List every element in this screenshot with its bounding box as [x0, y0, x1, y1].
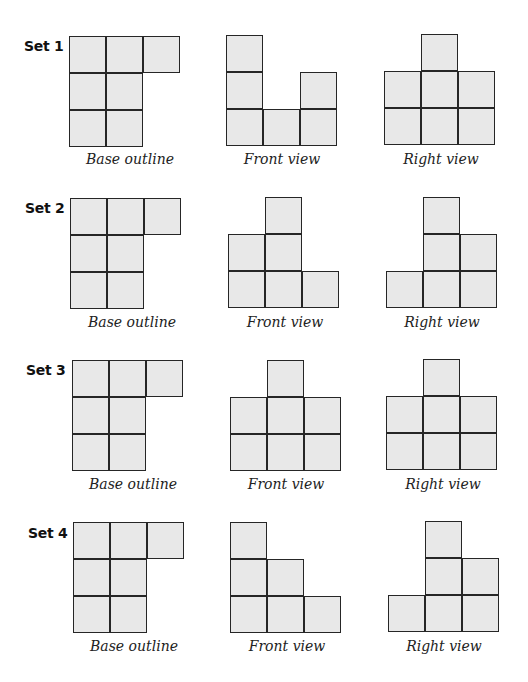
- cube-cell: [423, 396, 460, 433]
- cube-cell: [73, 522, 110, 559]
- cube-cell: [460, 396, 497, 433]
- cube-cell: [421, 108, 458, 145]
- cube-cell: [304, 397, 341, 434]
- cube-cell: [230, 522, 267, 559]
- cube-cell: [423, 359, 460, 396]
- cube-cell: [425, 558, 462, 595]
- cube-cell: [388, 595, 425, 632]
- right-view-caption: Right view: [373, 476, 513, 492]
- cube-cell: [458, 108, 495, 145]
- cube-cell: [226, 72, 263, 109]
- cube-cell: [228, 271, 265, 308]
- cube-cell: [106, 73, 143, 110]
- cube-cell: [70, 235, 107, 272]
- set-label: Set 2: [25, 200, 64, 216]
- cube-cell: [425, 595, 462, 632]
- front-view-caption: Front view: [217, 638, 357, 654]
- cube-cell: [304, 596, 341, 633]
- cube-cell: [267, 434, 304, 471]
- cube-cell: [263, 109, 300, 146]
- cube-cell: [72, 434, 109, 471]
- cube-cell: [423, 271, 460, 308]
- cube-cell: [302, 271, 339, 308]
- cube-cell: [230, 434, 267, 471]
- cube-cell: [460, 234, 497, 271]
- base-outline-caption: Base outline: [60, 151, 200, 167]
- right-view-caption: Right view: [372, 314, 512, 330]
- cube-cell: [109, 397, 146, 434]
- right-view-caption: Right view: [374, 638, 514, 654]
- cube-cell: [110, 596, 147, 633]
- cube-cell: [384, 71, 421, 108]
- cube-cell: [265, 197, 302, 234]
- cube-cell: [110, 559, 147, 596]
- cube-cell: [460, 271, 497, 308]
- cube-cell: [300, 109, 337, 146]
- cube-cell: [230, 397, 267, 434]
- base-outline-caption: Base outline: [63, 476, 203, 492]
- base-outline-caption: Base outline: [62, 314, 202, 330]
- cube-cell: [421, 34, 458, 71]
- set-label: Set 1: [24, 38, 63, 54]
- cube-cell: [228, 234, 265, 271]
- cube-cell: [143, 36, 180, 73]
- base-outline-caption: Base outline: [64, 638, 204, 654]
- cube-cell: [267, 596, 304, 633]
- cube-cell: [69, 73, 106, 110]
- cube-cell: [107, 198, 144, 235]
- cube-cell: [458, 71, 495, 108]
- cube-cell: [106, 36, 143, 73]
- cube-cell: [423, 433, 460, 470]
- cube-cell: [462, 595, 499, 632]
- cube-cell: [300, 72, 337, 109]
- cube-cell: [146, 360, 183, 397]
- cube-cell: [73, 596, 110, 633]
- cube-cell: [423, 234, 460, 271]
- cube-cell: [69, 36, 106, 73]
- cube-cell: [109, 360, 146, 397]
- front-view-caption: Front view: [215, 314, 355, 330]
- cube-cell: [386, 433, 423, 470]
- cube-cell: [421, 71, 458, 108]
- right-view-caption: Right view: [371, 151, 511, 167]
- cube-cell: [106, 110, 143, 147]
- cube-cell: [226, 35, 263, 72]
- cube-cell: [267, 397, 304, 434]
- cube-cell: [230, 596, 267, 633]
- cube-cell: [425, 521, 462, 558]
- cube-cell: [144, 198, 181, 235]
- cube-cell: [230, 559, 267, 596]
- cube-cell: [109, 434, 146, 471]
- front-view-caption: Front view: [216, 476, 356, 492]
- front-view-caption: Front view: [212, 151, 352, 167]
- cube-cell: [70, 272, 107, 309]
- cube-cell: [386, 396, 423, 433]
- cube-cell: [107, 272, 144, 309]
- cube-cell: [423, 197, 460, 234]
- cube-cell: [304, 434, 341, 471]
- cube-cell: [386, 271, 423, 308]
- cube-cell: [460, 433, 497, 470]
- cube-cell: [72, 397, 109, 434]
- cube-cell: [147, 522, 184, 559]
- cube-cell: [384, 108, 421, 145]
- cube-cell: [73, 559, 110, 596]
- cube-cell: [69, 110, 106, 147]
- cube-cell: [72, 360, 109, 397]
- cube-cell: [265, 271, 302, 308]
- cube-cell: [265, 234, 302, 271]
- cube-cell: [462, 558, 499, 595]
- cube-cell: [226, 109, 263, 146]
- cube-cell: [267, 559, 304, 596]
- set-label: Set 3: [26, 362, 65, 378]
- cube-cell: [70, 198, 107, 235]
- cube-cell: [107, 235, 144, 272]
- cube-cell: [267, 360, 304, 397]
- set-label: Set 4: [28, 525, 67, 541]
- cube-cell: [110, 522, 147, 559]
